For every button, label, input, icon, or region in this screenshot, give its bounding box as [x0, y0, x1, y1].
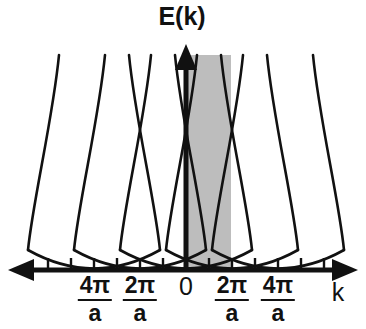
tick-label-denominator: a [78, 301, 112, 326]
tick-label-denominator: a [215, 301, 249, 326]
tick-label-neg-two-pi-over-a: 2π a [123, 274, 157, 326]
x-axis-left-arrow-icon [8, 259, 34, 281]
band-structure-figure: E(k) k 0 4π a 2π a 2π a 4π a [0, 0, 366, 329]
tick-label-numerator: 4π [78, 274, 112, 301]
tick-label-denominator: a [261, 301, 295, 326]
y-axis-label: E(k) [158, 4, 205, 29]
parabola-at-plus-2pi-over-a-arm-right [267, 55, 298, 250]
tick-label-denominator: a [123, 301, 157, 326]
x-axis-label: k [332, 280, 345, 305]
tick-label-numerator: 2π [215, 274, 249, 301]
parabola-at-minus-4pi-over-a-arms [28, 55, 59, 250]
parabola-at-minus-4pi-over-a-arms-right [129, 55, 160, 250]
parabola-at-zero-arm-left [120, 55, 151, 250]
tick-label-numerator: 4π [261, 274, 295, 301]
tick-label-neg-four-pi-over-a: 4π a [78, 274, 112, 326]
parabola-at-minus-2pi-over-a-arm-left [74, 55, 105, 250]
tick-label-pos-two-pi-over-a: 2π a [215, 274, 249, 326]
origin-tick-label: 0 [179, 274, 193, 299]
tick-label-numerator: 2π [123, 274, 157, 301]
tick-label-pos-four-pi-over-a: 4π a [261, 274, 295, 326]
parabola-at-plus-4pi-over-a-arm-right [313, 55, 344, 250]
